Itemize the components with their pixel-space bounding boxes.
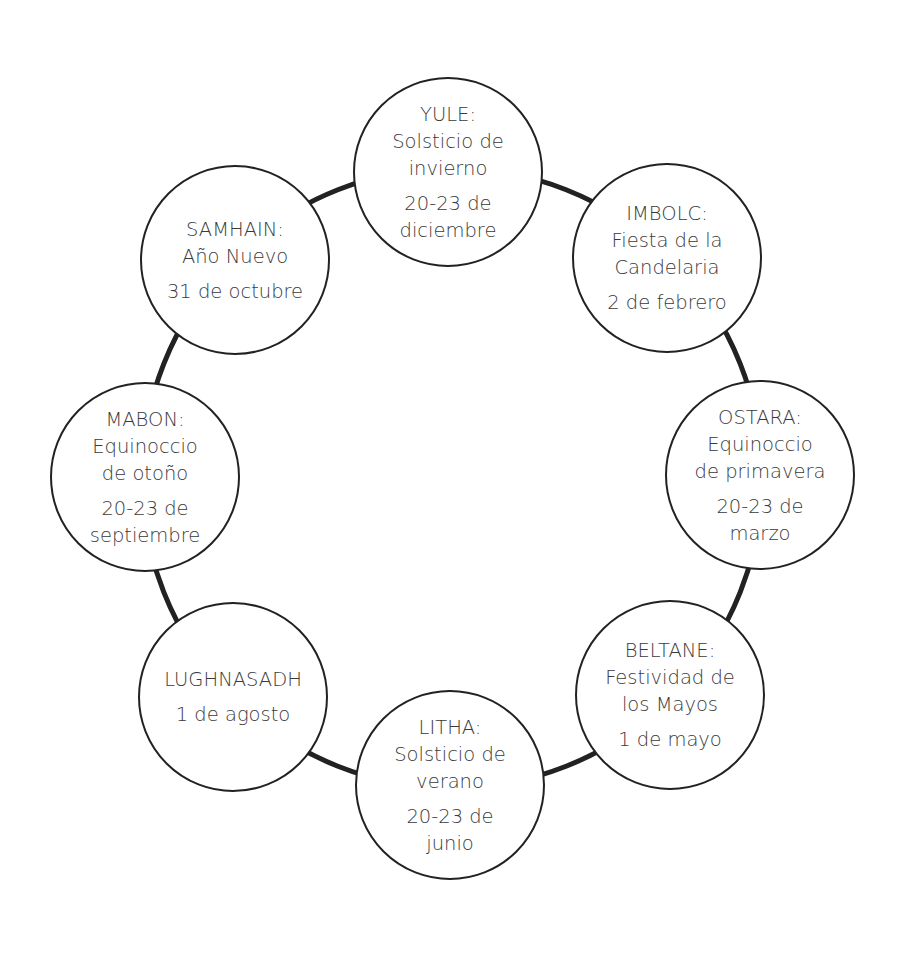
festival-subtitle: Solsticio deverano [394,741,506,795]
festival-subtitle-line: invierno [392,155,504,182]
festival-node-beltane: BELTANE:Festividad delos Mayos1 de mayo [575,600,765,790]
festival-date-line: 1 de mayo [618,726,722,753]
festival-date: 1 de mayo [618,726,722,753]
festival-date-line: 20-23 de [406,803,493,830]
festival-node-lughnasadh: LUGHNASADH1 de agosto [138,602,328,792]
festival-subtitle-line: de otoño [92,460,198,487]
festival-title: LITHA: [419,714,482,741]
festival-subtitle-line: Solsticio de [394,741,506,768]
festival-date-line: 20-23 de [400,190,497,217]
festival-date-line: 20-23 de [90,495,201,522]
festival-subtitle-line: Candelaria [611,254,722,281]
festival-date: 20-23 dediciembre [400,190,497,244]
festival-date: 20-23 demarzo [716,493,803,547]
festival-date-line: junio [406,830,493,857]
festival-date: 31 de octubre [167,278,303,305]
festival-date-line: marzo [716,520,803,547]
festival-subtitle-line: los Mayos [605,691,735,718]
festival-subtitle: Fiesta de laCandelaria [611,227,722,281]
festival-subtitle-line: de primavera [695,458,826,485]
festival-title: LUGHNASADH [164,666,302,693]
festival-subtitle-line: verano [394,768,506,795]
festival-date: 1 de agosto [176,701,291,728]
festival-title: SAMHAIN: [186,216,284,243]
festival-subtitle-line: Fiesta de la [611,227,722,254]
festival-node-ostara: OSTARA:Equinocciode primavera20-23 demar… [665,380,855,570]
festival-date-line: 2 de febrero [607,289,727,316]
festival-title: YULE: [420,101,476,128]
festival-date: 20-23 dejunio [406,803,493,857]
festival-node-imbolc: IMBOLC:Fiesta de laCandelaria2 de febrer… [572,163,762,353]
festival-date-line: 20-23 de [716,493,803,520]
festival-subtitle-line: Festividad de [605,664,735,691]
festival-title: IMBOLC: [626,200,707,227]
festival-subtitle-line: Equinoccio [695,431,826,458]
festival-subtitle: Solsticio deinvierno [392,128,504,182]
festival-date-line: 31 de octubre [167,278,303,305]
festival-date-line: septiembre [90,522,201,549]
festival-date: 2 de febrero [607,289,727,316]
festival-date: 20-23 deseptiembre [90,495,201,549]
festival-subtitle-line: Año Nuevo [182,243,288,270]
festival-title: MABON: [105,406,184,433]
festival-subtitle: Año Nuevo [182,243,288,270]
festival-title: BELTANE: [625,637,715,664]
festival-node-mabon: MABON:Equinocciode otoño20-23 deseptiemb… [50,382,240,572]
festival-subtitle: Festividad delos Mayos [605,664,735,718]
festival-subtitle-line: Solsticio de [392,128,504,155]
festival-subtitle: Equinocciode primavera [695,431,826,485]
festival-node-samhain: SAMHAIN:Año Nuevo31 de octubre [140,165,330,355]
festival-title: OSTARA: [718,404,802,431]
festival-subtitle: Equinocciode otoño [92,433,198,487]
festival-node-litha: LITHA:Solsticio deverano20-23 dejunio [355,690,545,880]
festival-node-yule: YULE:Solsticio deinvierno20-23 dediciemb… [353,77,543,267]
festival-date-line: diciembre [400,217,497,244]
festival-subtitle-line: Equinoccio [92,433,198,460]
festival-date-line: 1 de agosto [176,701,291,728]
wheel-of-year-diagram: YULE:Solsticio deinvierno20-23 dediciemb… [0,0,899,959]
